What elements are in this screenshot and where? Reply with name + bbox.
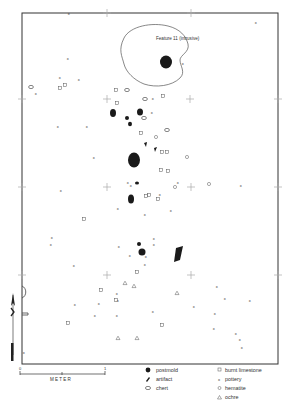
pottery-icon: x (50, 242, 52, 247)
legend-ochre: ochre (225, 394, 239, 400)
burnt-limestone-icon (115, 101, 118, 104)
pottery-icon: x (116, 291, 118, 296)
chert-icon (142, 116, 147, 119)
scale-unit-label: METER (50, 377, 72, 382)
edge-feature (22, 313, 28, 315)
postmold-icon (146, 368, 151, 373)
north-arrow-icon (11, 293, 15, 361)
pottery-icon: x (93, 155, 95, 160)
hematite-icon (173, 185, 176, 188)
pottery-icon: x (116, 313, 118, 318)
pottery-icon: x (240, 183, 242, 188)
burnt-limestone-icon (218, 368, 221, 371)
ochre-icon (132, 284, 136, 287)
pottery-icon: x (117, 206, 119, 211)
burnt-limestone-icon (159, 168, 162, 171)
chert-icon (145, 386, 150, 389)
ochre-icon (116, 336, 120, 339)
chert-icon (29, 85, 34, 88)
pottery-icon: x (153, 242, 155, 247)
burnt-limestone-icon (82, 217, 85, 220)
pottery-icon: x (127, 180, 129, 185)
pottery-icon: x (214, 311, 216, 316)
pottery-icon: x (151, 110, 153, 115)
pottery-icon: x (224, 296, 226, 301)
ochre-icon (218, 396, 222, 400)
pottery-icon: x (86, 124, 88, 129)
legend: postmold artifact chert burnt limestone … (145, 367, 261, 400)
pottery-icon: x (78, 77, 80, 82)
pottery-icon: x (218, 377, 221, 382)
pottery-icon: x (129, 253, 131, 258)
pottery-icon: x (51, 235, 53, 240)
burnt-limestone-icon (165, 150, 168, 153)
ochre-icon (135, 336, 139, 339)
artifact-icon (146, 377, 150, 382)
chert-icon (125, 88, 130, 91)
pottery-icon: x (74, 302, 76, 307)
ochre-icon (175, 291, 179, 294)
legend-hematite: hematite (225, 385, 246, 391)
edge-feature (22, 286, 26, 298)
burnt-limestone-symbols (58, 83, 169, 326)
pottery-symbols: xxxxxxxxxxxxxxxxxxxxxxxxxxxxxxxxxxxxxxxx… (23, 11, 257, 355)
pottery-icon: x (130, 183, 132, 188)
burnt-limestone-icon (63, 83, 66, 86)
burnt-limestone-icon (166, 169, 169, 172)
chert-icon (165, 128, 170, 131)
pottery-icon: x (153, 236, 155, 241)
pottery-icon: x (59, 75, 61, 80)
pottery-icon: x (68, 11, 70, 16)
burnt-limestone-icon (139, 131, 142, 134)
pottery-icon: x (235, 331, 237, 336)
chert-symbols (29, 85, 170, 131)
pottery-icon: x (152, 309, 154, 314)
legend-burnt-limestone: burnt limestone (225, 367, 262, 373)
pottery-icon: x (57, 124, 59, 129)
pottery-icon: x (118, 244, 120, 249)
feature-11-label: Feature 11 (intrusive) (156, 36, 200, 41)
feature-11-outline (121, 25, 188, 87)
legend-chert: chert (156, 385, 168, 391)
burnt-limestone-icon (58, 86, 61, 89)
burnt-limestone-icon (144, 194, 147, 197)
burnt-limestone-icon (160, 150, 163, 153)
legend-postmold: postmold (156, 367, 178, 373)
hematite-icon (218, 387, 221, 390)
burnt-limestone-icon (147, 193, 150, 196)
pottery-icon: x (239, 337, 241, 342)
site-plan-map: Feature 11 (intrusive) xxxxxxxxxxxxxxxxx… (0, 0, 291, 408)
pottery-icon: x (23, 350, 25, 355)
pottery-icon: x (193, 304, 195, 309)
pottery-icon: x (152, 96, 154, 101)
scale-end-label: 1 (104, 366, 107, 371)
hematite-symbols (154, 135, 210, 188)
scale-start-label: 0 (19, 366, 22, 371)
artifacts (144, 142, 183, 262)
hematite-icon (207, 182, 210, 185)
pottery-icon: x (216, 284, 218, 289)
burnt-limestone-icon (99, 288, 102, 291)
grid-markers (18, 9, 282, 279)
pottery-icon: x (98, 301, 100, 306)
pottery-icon: x (60, 188, 62, 193)
pottery-icon: x (35, 91, 37, 96)
legend-pottery: pottery (225, 376, 242, 382)
legend-artifact: artifact (156, 376, 173, 382)
ochre-icon (123, 281, 127, 284)
burnt-limestone-icon (114, 88, 117, 91)
pottery-icon: x (145, 254, 147, 259)
pottery-icon: x (249, 298, 251, 303)
pottery-icon: x (67, 56, 69, 61)
pottery-icon: x (182, 61, 184, 66)
pottery-icon: x (73, 263, 75, 268)
ochre-symbols (116, 281, 179, 339)
pottery-icon: x (94, 313, 96, 318)
hematite-icon (185, 155, 188, 158)
pottery-icon: x (144, 262, 146, 267)
hematite-icon (154, 135, 157, 138)
burnt-limestone-icon (156, 197, 159, 200)
burnt-limestone-icon (161, 94, 164, 97)
pottery-icon: x (170, 208, 172, 213)
scale-bar: 0 1 METER (19, 366, 107, 382)
